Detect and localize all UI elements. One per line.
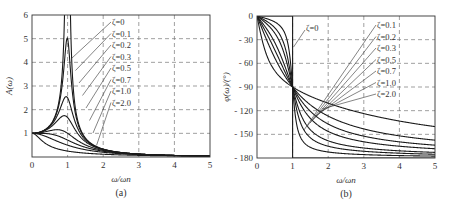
x-axis-label: ω/ωn <box>111 174 131 184</box>
x-tick-label: 0 <box>255 161 260 171</box>
curve-ζ=2.0 <box>257 16 435 127</box>
phase-chart: 0123450- 30- 60- 90- 120- 150- 180ω/ωnφ(… <box>221 11 438 200</box>
x-tick-label: 0 <box>30 160 35 170</box>
legend-label: ζ=0.1 <box>377 20 396 30</box>
curve-ζ=0.1 <box>257 16 435 156</box>
legend-label: ζ=0 <box>306 23 319 33</box>
panel-caption: (b) <box>340 188 352 200</box>
y-axis-label: A(ω) <box>4 77 14 96</box>
y-tick-label: - 180 <box>234 153 253 163</box>
x-tick-label: 2 <box>101 160 106 170</box>
panel-caption: (a) <box>115 187 126 199</box>
y-tick-label: 5 <box>24 34 29 44</box>
y-tick-label: 2 <box>24 105 29 115</box>
x-tick-label: 4 <box>172 160 177 170</box>
y-tick-label: 4 <box>24 57 29 67</box>
x-tick-label: 5 <box>208 160 213 170</box>
legend-label: ζ=1.0 <box>377 78 396 88</box>
legend-label: ζ=0.2 <box>112 40 131 50</box>
x-tick-label: 3 <box>137 160 142 170</box>
x-tick-label: 3 <box>362 161 367 171</box>
curve-ζ=1.0 <box>257 16 435 140</box>
y-tick-label: - 90 <box>239 82 254 92</box>
legend-label: ζ=0.3 <box>112 52 131 62</box>
x-tick-label: 1 <box>290 161 295 171</box>
y-tick-label: - 150 <box>234 129 253 139</box>
curve-ζ=0.2 <box>257 16 435 154</box>
y-tick-label: 3 <box>24 81 29 91</box>
legend-label: ζ=0.5 <box>377 55 396 65</box>
y-tick-label: - 60 <box>239 58 254 68</box>
legend-label: ζ=0.7 <box>112 75 131 85</box>
x-tick-label: 5 <box>433 161 438 171</box>
y-tick-label: - 30 <box>239 35 254 45</box>
legend-label: ζ=0.3 <box>377 43 396 53</box>
y-axis-label: φ(ω)/(°) <box>221 72 231 101</box>
curves <box>257 16 435 158</box>
figure: 012345123456ω/ωnA(ω)(a)ζ=0ζ=0.1ζ=0.2ζ=0.… <box>0 0 449 205</box>
y-tick-label: 6 <box>24 10 29 20</box>
legend: ζ=0ζ=0.1ζ=0.2ζ=0.3ζ=0.5ζ=0.7ζ=1.0ζ=2.0 <box>72 17 131 146</box>
legend-label: ζ=1.0 <box>112 86 131 96</box>
legend-label: ζ=0 <box>112 17 125 27</box>
y-tick-label: 1 <box>24 128 29 138</box>
y-tick-label: 0 <box>249 11 254 21</box>
x-axis-label: ω/ωn <box>336 175 356 185</box>
amplitude-chart: 012345123456ω/ωnA(ω)(a)ζ=0ζ=0.1ζ=0.2ζ=0.… <box>4 0 213 199</box>
y-tick-label: - 120 <box>234 106 253 116</box>
legend-label: ζ=0.1 <box>112 29 131 39</box>
legend: ζ=0ζ=0.1ζ=0.2ζ=0.3ζ=0.5ζ=0.7ζ=1.0ζ=2.0 <box>294 20 396 130</box>
legend-label: ζ=2.0 <box>112 98 131 108</box>
legend-label: ζ=0.2 <box>377 32 396 42</box>
x-tick-label: 2 <box>326 161 331 171</box>
x-tick-label: 4 <box>397 161 402 171</box>
legend-label: ζ=2.0 <box>377 89 396 99</box>
legend-label: ζ=0.5 <box>112 63 131 73</box>
legend-label: ζ=0.7 <box>377 66 396 76</box>
x-tick-label: 1 <box>65 160 70 170</box>
